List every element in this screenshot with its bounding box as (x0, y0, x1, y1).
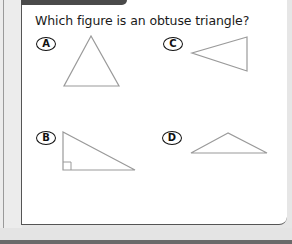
option-c-figure[interactable] (190, 35, 250, 73)
option-c-label[interactable]: C (163, 37, 183, 51)
page-frame-line (3, 0, 4, 228)
option-a-figure[interactable] (60, 34, 125, 90)
question-text: Which figure is an obtuse triangle? (35, 13, 249, 28)
option-d-figure[interactable] (189, 131, 269, 155)
card-header-tab (21, 0, 127, 5)
option-b-figure[interactable] (62, 131, 138, 173)
option-a-label[interactable]: A (36, 37, 56, 51)
option-d-label[interactable]: D (162, 131, 182, 145)
option-b-label[interactable]: B (36, 131, 56, 145)
page-bottom-line (0, 240, 292, 244)
